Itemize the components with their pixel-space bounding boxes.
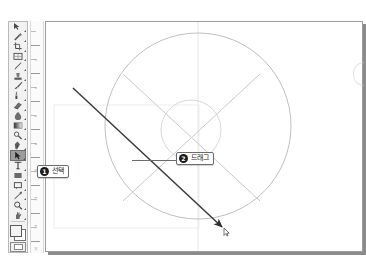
callout-select: 1 선택 bbox=[37, 165, 69, 178]
tool-corner-icon bbox=[24, 218, 26, 220]
callout-number-badge: 2 bbox=[179, 154, 188, 163]
magic-wand-tool[interactable] bbox=[10, 32, 26, 42]
canvas-vector-layer bbox=[46, 22, 363, 252]
ruler-mark: 8 bbox=[34, 143, 38, 145]
foreground-color-swatch[interactable] bbox=[10, 225, 22, 237]
quick-mask-toggle[interactable] bbox=[10, 242, 26, 252]
move-tool[interactable] bbox=[10, 22, 26, 32]
zoom-tool[interactable] bbox=[10, 200, 26, 210]
type-tool[interactable] bbox=[10, 161, 26, 171]
eraser-tool[interactable] bbox=[10, 101, 26, 111]
healing-brush-tool[interactable] bbox=[10, 61, 26, 71]
vertical-ruler[interactable]: 2 4 6 8 10 12 14 16 bbox=[30, 21, 44, 253]
crop-tool[interactable] bbox=[10, 42, 26, 52]
shape-tool[interactable] bbox=[10, 171, 26, 181]
notes-tool[interactable] bbox=[10, 181, 26, 191]
dodge-tool[interactable] bbox=[10, 130, 26, 140]
gradient-tool[interactable] bbox=[10, 120, 26, 130]
tool-corner-icon bbox=[23, 158, 25, 160]
brush-tool[interactable] bbox=[10, 81, 26, 91]
hand-tool[interactable] bbox=[10, 210, 26, 220]
stamp-tool[interactable] bbox=[10, 71, 26, 81]
quick-mask-icon bbox=[14, 244, 23, 250]
ruler-mark: 14 bbox=[34, 225, 38, 229]
ruler-mark: 12 bbox=[34, 197, 38, 201]
callout-drag: 2 드래그 bbox=[176, 152, 214, 165]
pen-tool[interactable] bbox=[10, 140, 26, 150]
pointer-cursor bbox=[224, 228, 229, 236]
blur-tool[interactable] bbox=[10, 111, 26, 121]
ruler-mark: 6 bbox=[34, 115, 38, 117]
callout-leader-line bbox=[132, 160, 177, 161]
ruler-mark: 16 bbox=[34, 247, 38, 251]
document-canvas[interactable] bbox=[46, 22, 362, 251]
ruler-mark: 4 bbox=[34, 87, 38, 89]
callout-label: 드래그 bbox=[191, 154, 209, 163]
eyedropper-tool[interactable] bbox=[10, 191, 26, 201]
ruler-mark: 2 bbox=[34, 59, 38, 61]
history-brush-tool[interactable] bbox=[10, 91, 26, 101]
editor-screenshot: 2 4 6 8 10 12 14 16 bbox=[0, 0, 366, 267]
bounding-box-guide bbox=[54, 105, 199, 228]
document-window[interactable] bbox=[45, 21, 363, 252]
path-selection-tool[interactable] bbox=[10, 150, 26, 161]
inner-circle-guide bbox=[161, 100, 221, 160]
callout-label: 선택 bbox=[52, 167, 64, 176]
tools-palette[interactable] bbox=[8, 21, 28, 253]
callout-number-badge: 1 bbox=[40, 167, 49, 176]
color-swatches[interactable] bbox=[10, 225, 26, 239]
slice-tool[interactable] bbox=[10, 52, 26, 62]
palette-divider bbox=[11, 221, 25, 222]
